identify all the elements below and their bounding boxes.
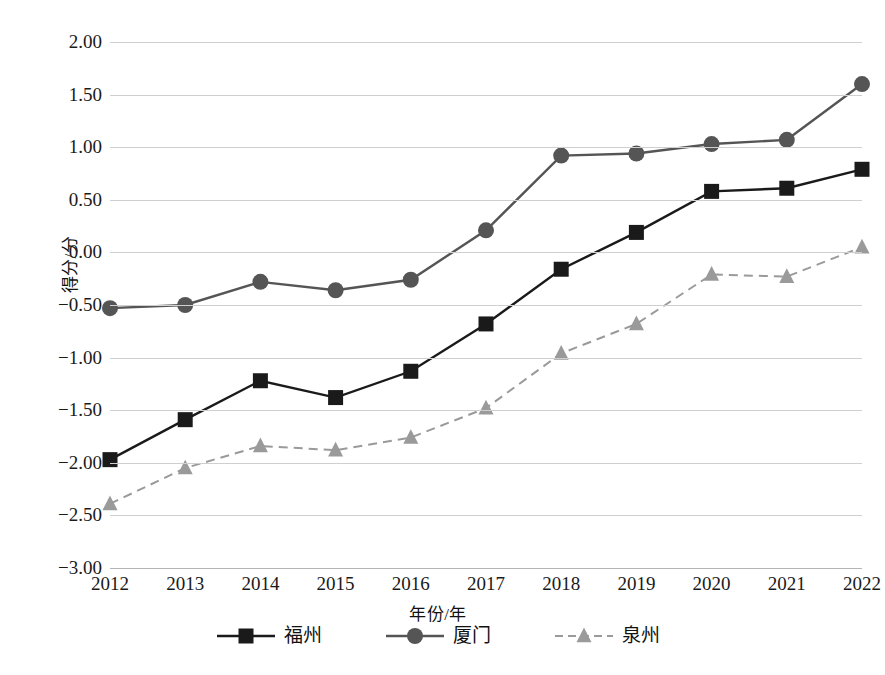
data-point — [253, 373, 268, 388]
y-axis-tick-label: −1.50 — [32, 400, 102, 419]
gridline — [110, 410, 862, 411]
gridline — [110, 200, 862, 201]
y-axis-tick-label: −2.50 — [32, 505, 102, 524]
x-axis-tick-label: 2022 — [822, 572, 885, 596]
data-point — [328, 282, 344, 298]
y-axis-tick-label: −2.00 — [32, 453, 102, 472]
data-point — [178, 412, 193, 427]
gridline — [110, 358, 862, 359]
gridline — [110, 568, 862, 569]
gridline — [110, 95, 862, 96]
gridline — [110, 305, 862, 306]
data-point — [328, 390, 343, 405]
data-point — [779, 181, 794, 196]
gridline — [110, 463, 862, 464]
y-axis-tick-label: 1.00 — [32, 137, 102, 156]
series-line — [110, 169, 862, 459]
data-point — [253, 438, 268, 453]
data-point — [779, 132, 795, 148]
x-axis-title: 年份/年 — [0, 600, 876, 625]
x-axis-tick-label: 2021 — [747, 572, 827, 596]
data-point — [103, 452, 118, 467]
x-axis-tick-label: 2013 — [145, 572, 225, 596]
data-point — [478, 222, 494, 238]
legend-label: 福州 — [284, 626, 322, 646]
legend-marker-icon — [386, 626, 444, 646]
data-point — [403, 364, 418, 379]
data-point — [854, 76, 870, 92]
y-axis-tick-label: −1.00 — [32, 348, 102, 367]
x-axis-tick-label: 2020 — [672, 572, 752, 596]
data-point — [252, 274, 268, 290]
data-point — [629, 316, 644, 331]
x-axis-tick-label: 2012 — [70, 572, 150, 596]
gridline — [110, 515, 862, 516]
gridline — [110, 147, 862, 148]
y-axis-tick-label: 2.00 — [32, 32, 102, 51]
legend-item-厦门[interactable]: 厦门 — [386, 626, 491, 646]
y-axis-tick-label: 0.50 — [32, 190, 102, 209]
data-point — [704, 266, 719, 281]
x-axis-tick-label: 2015 — [296, 572, 376, 596]
data-point — [704, 184, 719, 199]
legend-item-福州[interactable]: 福州 — [217, 626, 322, 646]
y-axis-tick-label: 1.50 — [32, 85, 102, 104]
data-point — [704, 136, 720, 152]
plot-area — [110, 42, 862, 568]
x-axis-tick-label: 2018 — [521, 572, 601, 596]
gridline — [110, 42, 862, 43]
x-axis-tick-label: 2017 — [446, 572, 526, 596]
data-point — [855, 162, 870, 177]
series-福州 — [103, 162, 870, 467]
x-axis-tick-label: 2016 — [371, 572, 451, 596]
data-point — [554, 262, 569, 277]
data-point — [629, 225, 644, 240]
y-axis-tick-label: −0.50 — [32, 295, 102, 314]
legend-marker-icon — [555, 626, 613, 646]
chart-legend: 福州厦门泉州 — [0, 626, 876, 646]
legend-item-泉州[interactable]: 泉州 — [555, 626, 660, 646]
x-axis-tick-label: 2019 — [596, 572, 676, 596]
x-axis-tick-labels: 2012201320142015201620172018201920202021… — [110, 572, 862, 602]
gridline — [110, 252, 862, 253]
series-泉州 — [103, 239, 870, 510]
series-厦门 — [102, 76, 870, 316]
data-point — [102, 300, 118, 316]
y-axis-tick-label: 0.00 — [32, 242, 102, 261]
series-line — [110, 247, 862, 504]
data-point — [403, 272, 419, 288]
legend-marker-icon — [217, 626, 275, 646]
data-point — [553, 148, 569, 164]
data-point — [479, 316, 494, 331]
data-point — [103, 495, 118, 510]
data-point — [479, 400, 494, 415]
x-axis-tick-label: 2014 — [220, 572, 300, 596]
legend-label: 泉州 — [622, 626, 660, 646]
legend-label: 厦门 — [453, 626, 491, 646]
data-point — [855, 239, 870, 254]
